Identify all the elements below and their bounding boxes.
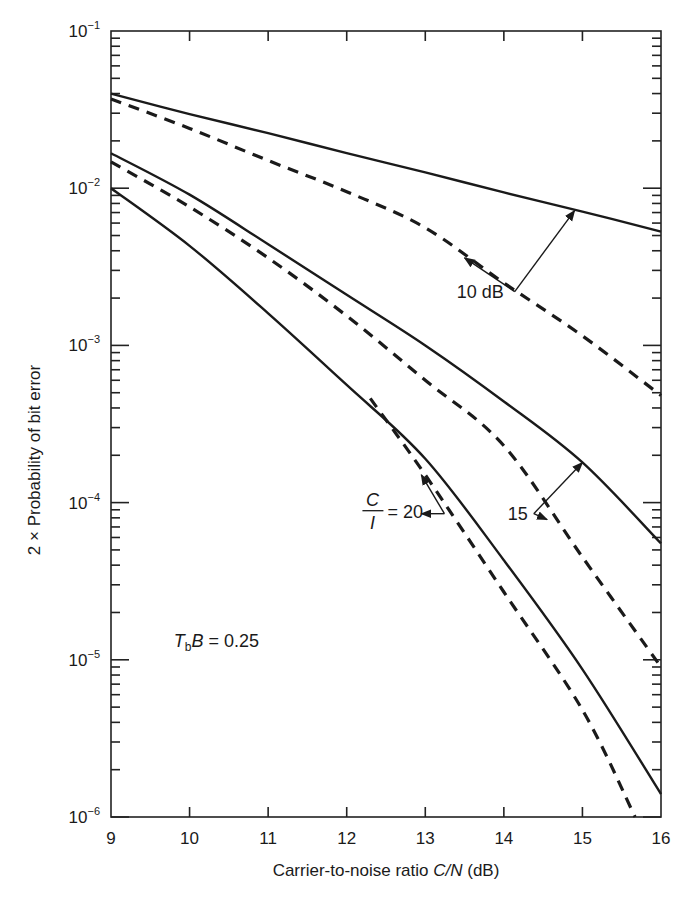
y-tick-labels: 10−110−210−310−410−510−6 bbox=[69, 19, 100, 827]
y-tick-label: 10−1 bbox=[69, 19, 100, 41]
x-tick-label: 13 bbox=[416, 829, 435, 848]
series-group bbox=[111, 94, 661, 817]
svg-text:C: C bbox=[366, 490, 380, 510]
annotation-arrow bbox=[421, 475, 444, 514]
c-over-i-annotation: CI= 20 bbox=[362, 490, 423, 533]
plot-frame bbox=[111, 31, 661, 817]
x-tick-label: 12 bbox=[337, 829, 356, 848]
annotations: 10 dB15CI= 20TbB = 0.25 bbox=[174, 211, 583, 655]
tbb-annotation: TbB = 0.25 bbox=[174, 631, 259, 654]
svg-text:= 20: = 20 bbox=[387, 502, 423, 522]
x-tick-label: 11 bbox=[259, 829, 277, 848]
annotation-label: 10 dB bbox=[457, 282, 504, 302]
annotation-arrow bbox=[534, 514, 547, 520]
axis-ticks bbox=[111, 31, 661, 817]
x-tick-label: 15 bbox=[573, 829, 592, 848]
x-tick-label: 14 bbox=[494, 829, 513, 848]
y-tick-label: 10−5 bbox=[69, 648, 100, 670]
annotation-arrow bbox=[515, 211, 575, 292]
y-tick-label: 10−3 bbox=[69, 333, 100, 355]
x-tick-label: 16 bbox=[652, 829, 671, 848]
curve-c-i-20-db-dashed- bbox=[370, 398, 635, 817]
x-axis-title: Carrier-to-noise ratio C/N (dB) bbox=[273, 861, 500, 880]
y-axis-title: 2 × Probability of bit error bbox=[25, 364, 44, 555]
annotation-arrow bbox=[534, 462, 583, 513]
chart: 10−110−210−310−410−510−6 910111213141516… bbox=[0, 0, 689, 903]
x-tick-labels: 910111213141516 bbox=[106, 829, 670, 848]
curve-c-i-10-db-dashed- bbox=[111, 99, 661, 396]
y-tick-label: 10−2 bbox=[69, 176, 100, 198]
curve-c-i-15-db-dashed- bbox=[111, 162, 661, 667]
x-tick-label: 10 bbox=[180, 829, 199, 848]
annotation-label: 15 bbox=[508, 504, 528, 524]
x-tick-label: 9 bbox=[106, 829, 115, 848]
svg-text:I: I bbox=[370, 513, 375, 533]
y-tick-label: 10−6 bbox=[69, 805, 100, 827]
y-tick-label: 10−4 bbox=[69, 491, 100, 513]
